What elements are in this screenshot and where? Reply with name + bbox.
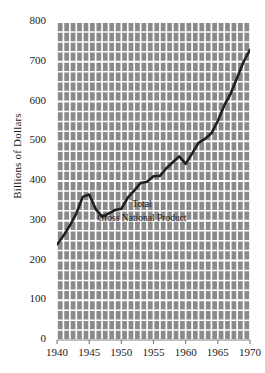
gnp-line-chart: Billions of Dollars 01002003004005006007… [0, 0, 265, 373]
series-label-line2: Gross National Product [82, 213, 202, 223]
y-axis-tick-label: 500 [0, 133, 46, 145]
y-axis-tick-label: 700 [0, 54, 46, 66]
y-axis-label: Billions of Dollars [11, 96, 23, 216]
y-axis-tick-label: 400 [0, 173, 46, 185]
x-axis-tick-label: 1970 [230, 346, 265, 358]
y-axis-tick-label: 800 [0, 14, 46, 26]
series-label-line1: Total [82, 199, 202, 209]
y-axis-tick-label: 100 [0, 292, 46, 304]
y-axis-tick-label: 600 [0, 94, 46, 106]
y-axis-tick-label: 0 [0, 332, 46, 344]
y-axis-tick-label: 300 [0, 213, 46, 225]
y-axis-tick-label: 200 [0, 253, 46, 265]
